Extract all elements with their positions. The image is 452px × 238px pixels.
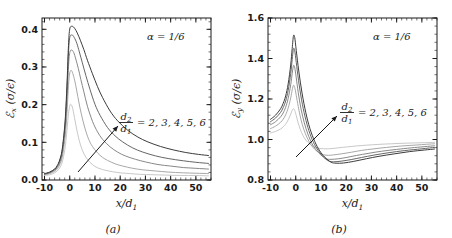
panel-a-plot: -10010203040500.00.10.20.30.4ℰx (σ/ϵ)x/d… xyxy=(0,0,226,238)
x-tick-label: 20 xyxy=(114,182,128,193)
y-axis-label: ℰx (σ/ϵ) xyxy=(4,79,18,120)
y-tick-label: 1.4 xyxy=(247,53,264,64)
x-axis-label: x/d1 xyxy=(342,197,364,212)
x-tick-label: 40 xyxy=(390,182,404,193)
y-tick-label: 0.2 xyxy=(21,99,38,110)
x-tick-label: 0 xyxy=(66,182,73,193)
y-tick-label: 0.3 xyxy=(21,61,38,72)
y-tick-label: 1.2 xyxy=(247,93,264,104)
alpha-annotation: α = 1/6 xyxy=(373,31,411,42)
y-tick-label: 0.0 xyxy=(21,174,38,185)
panel-a-caption: (a) xyxy=(0,223,226,236)
x-tick-label: 30 xyxy=(365,182,379,193)
y-tick-label: 0.1 xyxy=(21,137,38,148)
panel-a: -10010203040500.00.10.20.30.4ℰx (σ/ϵ)x/d… xyxy=(0,0,226,238)
y-tick-label: 0.4 xyxy=(21,24,38,35)
ratio-numerator: d2 xyxy=(121,111,132,124)
ratio-values: = 2, 3, 4, 5, 6 xyxy=(358,107,427,118)
y-axis-label: ℰy (σ/ϵ) xyxy=(230,79,244,120)
ratio-values: = 2, 3, 4, 5, 6 xyxy=(137,117,206,128)
x-tick-label: 20 xyxy=(340,182,354,193)
panel-b-plot: -10010203040500.81.01.21.41.6ℰy (σ/ϵ)x/d… xyxy=(226,0,452,238)
panel-b: -10010203040500.81.01.21.41.6ℰy (σ/ϵ)x/d… xyxy=(226,0,452,238)
x-tick-label: -10 xyxy=(36,182,54,193)
ratio-denominator: d1 xyxy=(121,123,132,136)
x-tick-label: 0 xyxy=(292,182,299,193)
x-tick-label: 10 xyxy=(88,182,102,193)
panel-b-caption: (b) xyxy=(226,223,452,236)
curves-group xyxy=(271,35,435,163)
y-tick-label: 1.6 xyxy=(247,12,264,23)
data-curve xyxy=(271,85,435,155)
x-tick-label: 50 xyxy=(415,182,429,193)
data-curve xyxy=(271,48,435,162)
alpha-annotation: α = 1/6 xyxy=(147,31,185,42)
curves-group xyxy=(45,26,209,176)
ratio-numerator: d2 xyxy=(342,101,353,114)
ratio-denominator: d1 xyxy=(342,113,353,126)
x-tick-label: 40 xyxy=(164,182,178,193)
y-tick-label: 1.0 xyxy=(247,134,264,145)
figure-container: -10010203040500.00.10.20.30.4ℰx (σ/ϵ)x/d… xyxy=(0,0,452,238)
x-tick-label: -10 xyxy=(262,182,280,193)
plot-frame xyxy=(268,18,437,180)
y-tick-label: 0.8 xyxy=(247,174,264,185)
x-tick-label: 50 xyxy=(189,182,203,193)
x-tick-label: 10 xyxy=(314,182,328,193)
x-tick-label: 30 xyxy=(139,182,153,193)
x-axis-label: x/d1 xyxy=(116,197,138,212)
